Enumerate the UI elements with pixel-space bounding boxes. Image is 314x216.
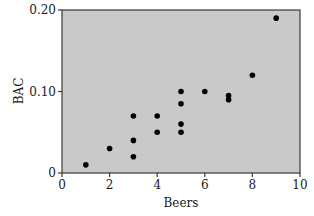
data-point [154,113,160,119]
x-tick-label: 10 [292,178,307,192]
data-point [107,146,113,152]
scatter-chart: 00.100.20 0246810 Beers BAC [0,0,314,216]
data-point [250,72,256,78]
x-tick-label: 6 [201,178,209,192]
data-point [154,129,160,135]
y-axis-ticks: 00.100.20 [29,3,62,180]
data-point [131,113,137,119]
data-point [131,138,137,144]
y-tick-label: 0 [48,166,56,180]
y-tick-label: 0.20 [29,3,56,17]
data-point [178,101,184,107]
x-tick-label: 2 [106,178,114,192]
data-point [131,154,137,160]
x-axis-ticks: 0246810 [58,173,307,192]
x-tick-label: 8 [249,178,257,192]
data-point [83,162,89,168]
data-point [226,93,232,99]
y-axis-label: BAC [12,78,26,105]
x-tick-label: 0 [58,178,66,192]
data-point [178,121,184,127]
data-point [178,89,184,95]
x-tick-label: 4 [153,178,161,192]
data-point [178,129,184,135]
data-point [202,89,208,95]
chart-canvas: 00.100.20 0246810 Beers BAC [0,0,314,216]
x-axis-label: Beers [164,196,199,210]
y-tick-label: 0.10 [29,85,56,99]
data-point [273,15,279,21]
